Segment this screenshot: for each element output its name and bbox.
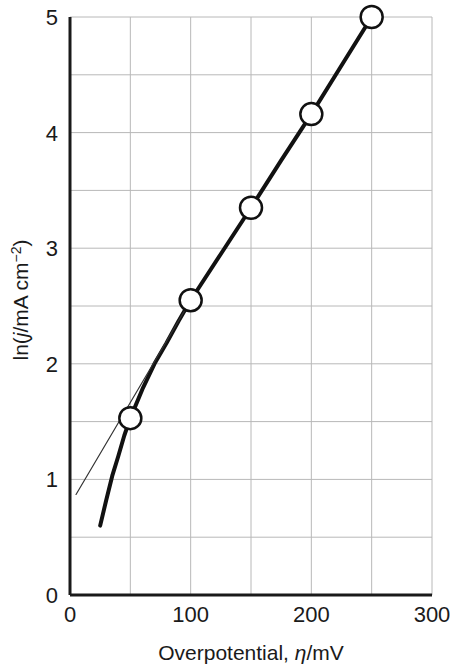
y-tick-label: 1 (46, 467, 58, 492)
data-point-marker (361, 6, 383, 28)
data-point-marker (119, 407, 141, 429)
x-tick-label: 0 (64, 602, 76, 627)
y-tick-label: 2 (46, 352, 58, 377)
data-point-marker (300, 103, 322, 125)
y-tick-label: 0 (46, 583, 58, 608)
y-tick-label: 5 (46, 5, 58, 30)
tafel-plot-svg: 0100200300 012345 Overpotential, η/mV ln… (0, 0, 466, 672)
x-tick-label: 200 (293, 602, 330, 627)
y-tick-label: 3 (46, 236, 58, 261)
x-axis-title: Overpotential, η/mV (158, 641, 344, 664)
x-tick-label: 100 (172, 602, 209, 627)
x-tick-label: 300 (414, 602, 451, 627)
y-tick-label: 4 (46, 121, 58, 146)
data-point-marker (180, 289, 202, 311)
data-point-marker (240, 197, 262, 219)
chart-figure: 0100200300 012345 Overpotential, η/mV ln… (0, 0, 466, 672)
